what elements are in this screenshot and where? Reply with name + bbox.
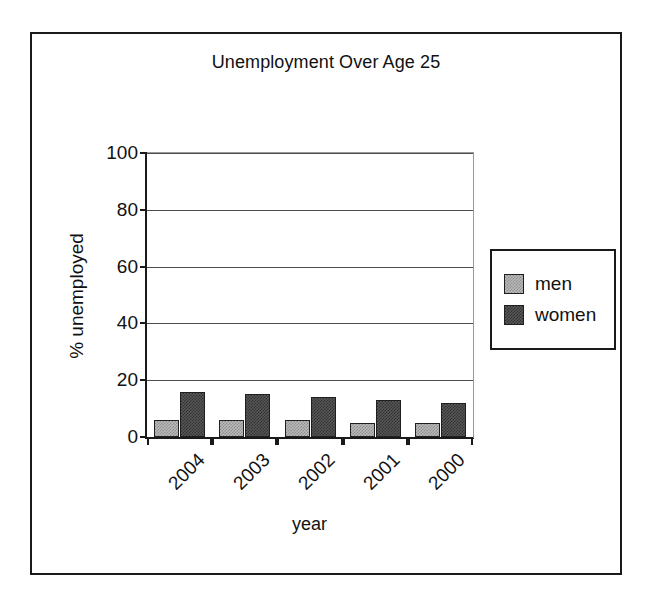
legend-item-men[interactable]: men	[504, 273, 602, 295]
y-tick-label-80: 80	[117, 199, 138, 221]
y-tick-label-60: 60	[117, 256, 138, 278]
bar-women-2000	[441, 403, 466, 437]
y-tick-mark-20	[140, 379, 147, 381]
bar-women-2003	[245, 394, 270, 437]
y-tick-mark-100	[140, 152, 147, 154]
bar-group	[154, 153, 205, 437]
y-tick-label-40: 40	[117, 312, 138, 334]
x-tick-mark	[471, 437, 473, 445]
y-tick-mark-60	[140, 266, 147, 268]
bar-group	[415, 153, 466, 437]
bar-men-2003	[219, 420, 244, 437]
bar-men-2002	[285, 420, 310, 437]
bar-women-2001	[376, 400, 401, 437]
legend-label: men	[535, 273, 572, 295]
bar-women-2002	[311, 397, 336, 437]
x-tick-mark	[343, 437, 345, 445]
y-axis-title-label: % unemployed	[66, 233, 88, 359]
bar-group	[285, 153, 336, 437]
x-tick-mark	[408, 437, 410, 445]
x-tick-label-2004: 2004	[164, 449, 209, 494]
bar-men-2000	[415, 423, 440, 437]
chart-title: Unemployment Over Age 25	[32, 52, 620, 73]
bar-men-2004	[154, 420, 179, 437]
bars-layer	[147, 153, 473, 437]
y-tick-label-0: 0	[127, 426, 138, 448]
y-tick-mark-80	[140, 209, 147, 211]
x-tick-mark	[277, 437, 279, 445]
legend-label: women	[535, 304, 596, 326]
legend-item-women[interactable]: women	[504, 304, 602, 326]
x-axis-title: year	[145, 514, 474, 535]
legend-swatch-women	[504, 305, 524, 325]
x-tick-mark	[212, 437, 214, 445]
plot-area: 020406080100 20042003200220012000	[145, 152, 474, 439]
bar-group	[350, 153, 401, 437]
bar-women-2004	[180, 392, 205, 437]
y-tick-label-100: 100	[106, 142, 138, 164]
y-tick-label-20: 20	[117, 369, 138, 391]
x-tick-mark	[147, 437, 149, 445]
x-tick-label-2003: 2003	[229, 449, 274, 494]
legend-swatch-men	[504, 274, 524, 294]
bar-group	[219, 153, 270, 437]
y-axis-title: % unemployed	[64, 152, 90, 439]
figure-frame: Unemployment Over Age 25 % unemployed 02…	[30, 32, 622, 575]
y-tick-mark-40	[140, 322, 147, 324]
bar-men-2001	[350, 423, 375, 437]
chart-legend: menwomen	[490, 249, 616, 350]
x-tick-label-2002: 2002	[294, 449, 339, 494]
x-tick-label-2000: 2000	[424, 449, 469, 494]
y-tick-mark-0	[140, 436, 147, 438]
x-tick-label-2001: 2001	[359, 449, 404, 494]
